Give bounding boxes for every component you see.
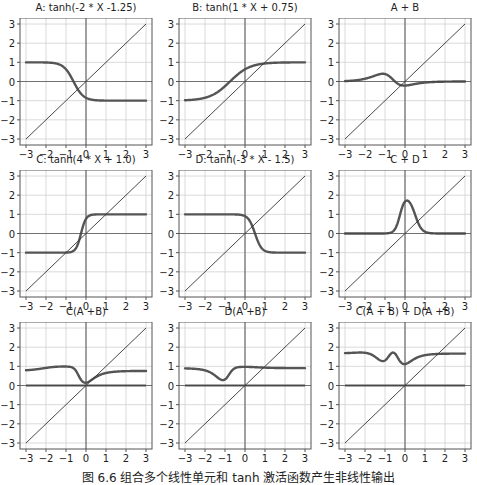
y-tick-label: −1 [0, 400, 15, 411]
subplot-8: D(A +B)−3−2−10123−3−2−10123 [159, 306, 317, 465]
figure-caption: 图 6.6 组合多个线性单元和 tanh 激活函数产生非线性输出 [0, 468, 477, 485]
plot-area: −3−2−10123−3−2−10123 [319, 322, 477, 466]
y-tick-label: 0 [168, 229, 174, 240]
y-tick-label: −1 [0, 96, 15, 107]
y-tick-label: −1 [159, 96, 174, 107]
x-tick-label: 3 [462, 453, 468, 464]
y-tick-label: −2 [159, 419, 174, 430]
y-tick-label: 1 [168, 361, 174, 372]
y-tick-label: −1 [319, 96, 334, 107]
y-tick-label: 1 [9, 209, 15, 220]
x-tick-label: 1 [103, 453, 109, 464]
x-tick-label: −3 [338, 453, 353, 464]
subplot-3: A + B−3−2−10123−3−2−10123 [319, 2, 477, 161]
plot-area: −3−2−10123−3−2−10123 [0, 322, 158, 466]
subplot-9: C(A + B) + D(A +B)−3−2−10123−3−2−10123 [319, 306, 477, 465]
plot-area: −3−2−10123−3−2−10123 [159, 170, 317, 314]
y-tick-label: 3 [328, 171, 334, 182]
y-tick-label: 2 [168, 342, 174, 353]
subplot-title: C(A + B) + D(A +B) [339, 306, 471, 317]
y-tick-label: 3 [328, 323, 334, 334]
x-tick-label: 1 [262, 453, 268, 464]
x-tick-label: 2 [123, 453, 129, 464]
x-tick-label: −1 [59, 453, 74, 464]
y-tick-label: 2 [328, 190, 334, 201]
x-tick-label: −2 [39, 453, 54, 464]
y-tick-label: −3 [159, 134, 174, 145]
y-tick-label: 1 [168, 57, 174, 68]
subplot-title: C + D [339, 154, 471, 165]
subplot-title: A + B [339, 2, 471, 13]
subplot-title: C: tanh(4 * X + 1.0) [20, 154, 152, 165]
y-tick-label: −2 [319, 115, 334, 126]
y-tick-label: −1 [159, 400, 174, 411]
y-tick-label: 3 [9, 19, 15, 30]
y-tick-label: −2 [159, 267, 174, 278]
subplot-6: C + D−3−2−10123−3−2−10123 [319, 154, 477, 313]
x-tick-label: 3 [143, 453, 149, 464]
y-tick-label: 1 [168, 209, 174, 220]
y-tick-label: 0 [9, 77, 15, 88]
y-tick-label: 3 [9, 323, 15, 334]
subplot-title: B: tanh(1 * X + 0.75) [179, 2, 311, 13]
subplot-7: C(A +B)−3−2−10123−3−2−10123 [0, 306, 158, 465]
subplot-title: C(A +B) [20, 306, 152, 317]
y-tick-label: −2 [319, 267, 334, 278]
y-tick-label: 1 [328, 361, 334, 372]
x-tick-label: −3 [19, 453, 34, 464]
x-tick-label: 2 [442, 453, 448, 464]
x-tick-label: 1 [422, 453, 428, 464]
y-tick-label: 1 [9, 57, 15, 68]
y-tick-label: −2 [319, 419, 334, 430]
y-tick-label: 3 [168, 19, 174, 30]
y-tick-label: −3 [319, 438, 334, 449]
y-tick-label: −3 [0, 438, 15, 449]
y-tick-label: −3 [159, 286, 174, 297]
y-tick-label: 3 [328, 19, 334, 30]
subplot-1: A: tanh(-2 * X -1.25)−3−2−10123−3−2−1012… [0, 2, 158, 161]
y-tick-label: 3 [168, 171, 174, 182]
x-tick-label: 2 [282, 453, 288, 464]
y-tick-label: −1 [319, 400, 334, 411]
y-tick-label: 0 [168, 77, 174, 88]
y-tick-label: 3 [168, 323, 174, 334]
y-tick-label: 2 [168, 190, 174, 201]
y-tick-label: −3 [0, 286, 15, 297]
x-tick-label: 3 [302, 453, 308, 464]
y-tick-label: 3 [9, 171, 15, 182]
subplot-title: A: tanh(-2 * X -1.25) [20, 2, 152, 13]
x-tick-label: −2 [198, 453, 213, 464]
y-tick-label: −2 [0, 419, 15, 430]
y-tick-label: 2 [9, 342, 15, 353]
y-tick-label: −3 [319, 286, 334, 297]
y-tick-label: 2 [328, 38, 334, 49]
subplot-5: D: tanh(-3 * X - 1.5)−3−2−10123−3−2−1012… [159, 154, 317, 313]
y-tick-label: −3 [0, 134, 15, 145]
y-tick-label: 0 [328, 77, 334, 88]
y-tick-label: 2 [328, 342, 334, 353]
subplot-4: C: tanh(4 * X + 1.0)−3−2−10123−3−2−10123 [0, 154, 158, 313]
plot-area: −3−2−10123−3−2−10123 [319, 170, 477, 314]
y-tick-label: −1 [0, 248, 15, 259]
y-tick-label: −2 [0, 267, 15, 278]
y-tick-label: −1 [319, 248, 334, 259]
x-tick-label: 0 [402, 453, 408, 464]
x-tick-label: −3 [178, 453, 193, 464]
subplot-title: D(A +B) [179, 306, 311, 317]
y-tick-label: −3 [159, 438, 174, 449]
x-tick-label: 0 [83, 453, 89, 464]
y-tick-label: 0 [328, 229, 334, 240]
y-tick-label: −3 [319, 134, 334, 145]
x-tick-label: −2 [358, 453, 373, 464]
y-tick-label: −2 [159, 115, 174, 126]
x-tick-label: −1 [378, 453, 393, 464]
y-tick-label: 2 [168, 38, 174, 49]
y-tick-label: 1 [328, 57, 334, 68]
y-tick-label: 1 [328, 209, 334, 220]
y-tick-label: 0 [328, 381, 334, 392]
y-tick-label: 1 [9, 361, 15, 372]
subplot-title: D: tanh(-3 * X - 1.5) [179, 154, 311, 165]
subplot-2: B: tanh(1 * X + 0.75)−3−2−10123−3−2−1012… [159, 2, 317, 161]
x-tick-label: −1 [218, 453, 233, 464]
y-tick-label: 2 [9, 38, 15, 49]
